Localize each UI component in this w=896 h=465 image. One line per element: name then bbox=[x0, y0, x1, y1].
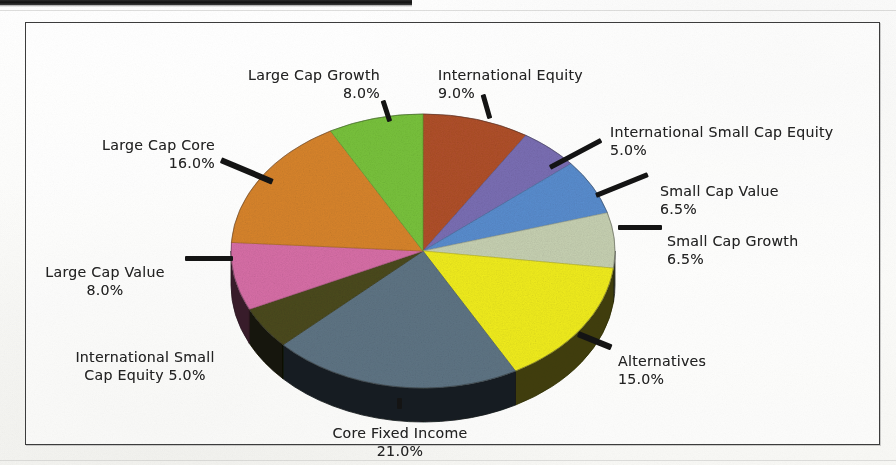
pie-label-intl-small-cap-equity-top-percent: 5.0% bbox=[610, 142, 890, 159]
pie-label-large-cap-growth-percent: 8.0% bbox=[200, 85, 380, 102]
pie-label-alternatives-percent: 15.0% bbox=[618, 371, 808, 388]
pie-label-alternatives: Alternatives 15.0% bbox=[618, 336, 808, 405]
leader-line-small-cap-growth bbox=[618, 225, 662, 230]
pie-label-large-cap-value: Large Cap Value 8.0% bbox=[25, 247, 185, 316]
pie-label-large-cap-value-percent: 8.0% bbox=[25, 282, 185, 299]
top-black-rule-shadow bbox=[0, 5, 412, 7]
pie-label-large-cap-core-percent: 16.0% bbox=[55, 155, 215, 172]
pie-label-large-cap-growth-name: Large Cap Growth bbox=[248, 67, 380, 83]
pie-label-core-fixed-income: Core Fixed Income 21.0% bbox=[300, 408, 500, 465]
pie-label-core-fixed-income-name: Core Fixed Income bbox=[332, 425, 467, 441]
pie-label-small-cap-growth: Small Cap Growth 6.5% bbox=[667, 216, 877, 285]
pie-label-core-fixed-income-percent: 21.0% bbox=[300, 443, 500, 460]
leader-line-large-cap-value bbox=[185, 256, 233, 261]
pie-label-international-equity-name: International Equity bbox=[438, 67, 583, 83]
pie-label-alternatives-name: Alternatives bbox=[618, 353, 706, 369]
pie-label-intl-small-cap-equity-left-name: International Small Cap Equity 5.0% bbox=[75, 349, 214, 382]
pie-label-small-cap-growth-name: Small Cap Growth bbox=[667, 233, 798, 249]
pie-label-small-cap-value-name: Small Cap Value bbox=[660, 183, 779, 199]
pie-label-large-cap-core: Large Cap Core 16.0% bbox=[55, 120, 215, 189]
pie-label-intl-small-cap-equity-left: International Small Cap Equity 5.0% bbox=[45, 332, 245, 384]
pie-label-large-cap-value-name: Large Cap Value bbox=[45, 264, 164, 280]
pie-label-large-cap-core-name: Large Cap Core bbox=[102, 137, 215, 153]
pie-label-intl-small-cap-equity-top-name: International Small Cap Equity bbox=[610, 124, 833, 140]
pie-label-small-cap-growth-percent: 6.5% bbox=[667, 251, 877, 268]
top-hairline-divider bbox=[0, 10, 896, 11]
pie-label-international-equity-percent: 9.0% bbox=[438, 85, 648, 102]
pie-label-large-cap-growth: Large Cap Growth 8.0% bbox=[200, 50, 380, 119]
